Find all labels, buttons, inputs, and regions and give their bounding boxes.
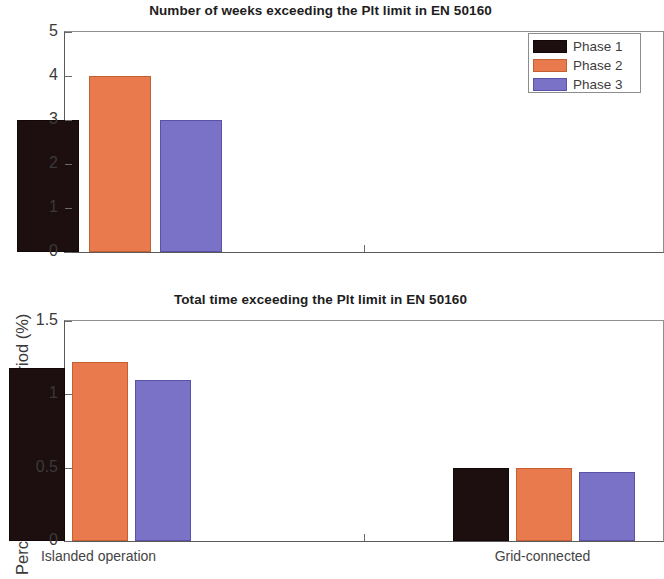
- y-tick-total-time-1: [65, 468, 72, 469]
- y-tick-weeks-0: [65, 252, 72, 253]
- y-tick-weeks-4: [65, 76, 72, 77]
- bar-total-time-grid-connected-phase-3: [579, 472, 635, 541]
- y-tick-label-weeks-0: 0: [49, 242, 58, 260]
- legend-swatch-icon-phase-1: [533, 40, 567, 53]
- y-tick-label-weeks-1: 1: [49, 198, 58, 216]
- legend-label-phase-1: Phase 1: [573, 39, 623, 54]
- legend: Phase 1 Phase 2 Phase 3: [528, 33, 641, 93]
- chart-panel-weeks: Number of weeks exceeding the Plt limit …: [0, 0, 641, 290]
- bar-total-time-grid-connected-phase-1: [453, 468, 509, 541]
- y-tick-total-time-0: [65, 541, 72, 542]
- y-tick-label-weeks-4: 4: [49, 66, 58, 84]
- y-tick-label-total-time-3: 1.5: [36, 311, 58, 329]
- x-tick-total-time-1: [364, 534, 365, 541]
- y-tick-weeks-2: [65, 164, 72, 165]
- legend-label-phase-2: Phase 2: [573, 58, 623, 73]
- bar-total-time-grid-connected-phase-2: [516, 468, 572, 541]
- legend-swatch-icon-phase-2: [533, 59, 567, 72]
- y-tick-label-total-time-1: 0.5: [36, 458, 58, 476]
- x-tick-label-islanded-operation: Islanded operation: [41, 548, 156, 564]
- chart-panel-total-time: Total time exceeding the Plt limit in EN…: [0, 290, 641, 579]
- y-tick-weeks-1: [65, 208, 72, 209]
- bar-weeks-islanded-operation-phase-2: [89, 76, 151, 252]
- chart-title-weeks: Number of weeks exceeding the Plt limit …: [0, 3, 641, 18]
- bar-total-time-islanded-operation-phase-2: [72, 362, 128, 541]
- y-tick-label-total-time-0: 0: [49, 531, 58, 549]
- legend-label-phase-3: Phase 3: [573, 77, 623, 92]
- y-tick-label-total-time-2: 1: [49, 384, 58, 402]
- y-tick-weeks-5: [65, 32, 72, 33]
- x-tick-label-grid-connected: Grid-connected: [495, 548, 591, 564]
- bar-weeks-islanded-operation-phase-3: [160, 120, 222, 252]
- legend-item-phase-2: Phase 2: [533, 56, 640, 74]
- legend-item-phase-3: Phase 3: [533, 75, 640, 93]
- legend-item-phase-1: Phase 1: [533, 37, 640, 55]
- bar-total-time-islanded-operation-phase-3: [135, 380, 191, 541]
- y-tick-total-time-3: [65, 321, 72, 322]
- y-tick-label-weeks-3: 3: [49, 110, 58, 128]
- y-tick-weeks-3: [65, 120, 72, 121]
- x-tick-weeks-1: [364, 245, 365, 252]
- plot-area-total-time: [64, 320, 664, 542]
- y-tick-label-weeks-2: 2: [49, 154, 58, 172]
- legend-swatch-icon-phase-3: [533, 78, 567, 91]
- y-tick-label-weeks-5: 5: [49, 22, 58, 40]
- chart-title-total-time: Total time exceeding the Plt limit in EN…: [0, 292, 641, 307]
- bar-group-total-time: [65, 321, 663, 541]
- y-tick-total-time-2: [65, 394, 72, 395]
- bar-weeks-islanded-operation-phase-1: [17, 120, 79, 252]
